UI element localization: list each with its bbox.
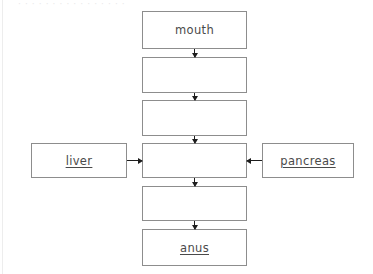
arrow-blank-1-to-blank-2	[194, 93, 195, 100]
page-edge-rule	[2, 0, 3, 274]
flow-box-blank-4[interactable]	[142, 186, 247, 221]
arrow-blank-3-to-blank-4	[194, 178, 195, 186]
top-cropped-text-artifact: · · · · · · · · · · · · · · · ·	[18, 0, 318, 5]
arrow-blank-2-to-blank-3	[194, 136, 195, 143]
diagram-canvas: · · · · · · · · · · · · · · · · mouth an…	[0, 0, 373, 274]
flow-box-liver[interactable]: liver	[31, 143, 127, 178]
flow-box-label-pancreas: pancreas	[280, 154, 335, 168]
flow-box-blank-3[interactable]	[142, 143, 247, 178]
flow-box-pancreas[interactable]: pancreas	[262, 143, 354, 178]
arrow-liver-to-center	[127, 160, 142, 161]
arrow-mouth-to-blank-1	[194, 49, 195, 57]
flow-box-blank-1[interactable]	[142, 57, 247, 93]
arrow-blank-4-to-anus	[194, 221, 195, 229]
flow-box-anus[interactable]: anus	[142, 229, 247, 266]
flow-box-label-liver: liver	[66, 154, 93, 168]
flow-box-mouth[interactable]: mouth	[142, 11, 247, 49]
flow-box-label-anus: anus	[180, 241, 209, 255]
flow-box-label-mouth: mouth	[175, 23, 214, 37]
arrow-pancreas-to-center	[247, 160, 262, 161]
flow-box-blank-2[interactable]	[142, 100, 247, 136]
